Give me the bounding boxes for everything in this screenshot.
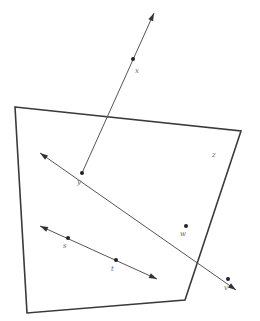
- lines-layer: [40, 13, 236, 290]
- point-label-v: v: [224, 284, 228, 292]
- arrowhead-icon: [148, 13, 154, 21]
- line-xy: [82, 13, 154, 173]
- point-x: [131, 57, 135, 61]
- point-label-t: t: [111, 265, 114, 273]
- point-w: [184, 224, 188, 228]
- point-label-x: x: [135, 67, 139, 75]
- line-st: [40, 226, 157, 279]
- arrowhead-icon: [149, 273, 157, 279]
- quadrilateral-shape: [15, 107, 241, 313]
- line-ywv-segment: [40, 153, 236, 290]
- point-t: [114, 258, 118, 262]
- point-label-z: z: [211, 151, 216, 159]
- line-ywv: [40, 153, 236, 290]
- arrowhead-icon: [40, 226, 48, 232]
- point-label-w: w: [180, 230, 186, 238]
- point-v: [226, 277, 230, 281]
- points-layer: [66, 57, 230, 281]
- polygon-layer: [15, 107, 241, 313]
- geometry-diagram: xyzwvst: [0, 0, 260, 321]
- labels-layer: xyzwvst: [63, 67, 228, 292]
- point-label-s: s: [63, 242, 67, 250]
- point-y: [80, 171, 84, 175]
- line-xy-segment: [82, 13, 154, 173]
- point-s: [66, 236, 70, 240]
- arrowhead-icon: [40, 153, 48, 160]
- arrowhead-icon: [228, 283, 236, 290]
- line-st-segment: [40, 226, 157, 279]
